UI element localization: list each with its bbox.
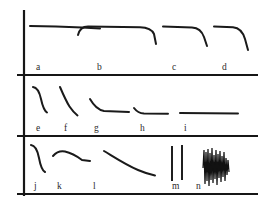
figure-container: a b c d e f g h i j k <box>0 0 271 206</box>
curve-label-e: e <box>36 123 40 133</box>
curve-label-d: d <box>222 62 227 72</box>
curve-f <box>60 87 78 116</box>
panel-top: a b c d <box>30 26 248 72</box>
curve-j <box>31 145 45 172</box>
curve-e <box>33 87 47 113</box>
curve-b <box>78 26 156 44</box>
curve-i <box>180 113 238 114</box>
curve-typology-figure: a b c d e f g h i j k <box>0 0 271 206</box>
panel-middle: e f g h i <box>33 87 238 133</box>
curve-l <box>104 151 155 176</box>
curve-label-h: h <box>140 123 145 133</box>
curve-label-b: b <box>97 62 102 72</box>
curve-label-k: k <box>57 181 62 191</box>
curve-m <box>172 145 182 181</box>
curve-c <box>163 27 207 46</box>
curve-g <box>90 99 129 112</box>
curve-label-l: l <box>93 181 96 191</box>
curve-label-n: n <box>196 181 201 191</box>
panel-bottom: j k l m n <box>31 145 229 191</box>
curve-n <box>203 148 229 186</box>
curve-label-a: a <box>36 62 41 72</box>
curve-label-f: f <box>64 123 68 133</box>
curve-d <box>214 27 248 50</box>
curve-label-i: i <box>184 123 187 133</box>
curve-k <box>53 151 90 161</box>
curve-label-m: m <box>172 181 180 191</box>
curve-label-j: j <box>33 181 37 191</box>
curve-h <box>134 108 168 114</box>
curve-label-g: g <box>94 123 99 133</box>
curve-label-c: c <box>172 62 176 72</box>
